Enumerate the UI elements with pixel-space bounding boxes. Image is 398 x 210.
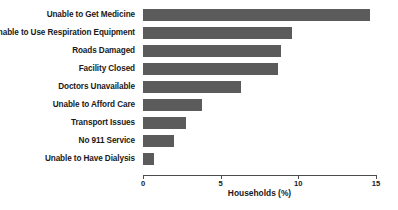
category-label: Transport Issues xyxy=(71,117,135,129)
bar xyxy=(143,81,241,93)
x-axis-tick-label: 10 xyxy=(294,179,302,188)
bar xyxy=(143,117,186,129)
category-label: Unable to Afford Care xyxy=(53,99,135,111)
bar-chart: Unable to Get MedicineUnable to Use Resp… xyxy=(0,0,398,210)
bar xyxy=(143,63,278,75)
bar xyxy=(143,153,154,165)
bar xyxy=(143,9,370,21)
x-axis-title: Households (%) xyxy=(143,188,376,198)
category-label: Unable to Have Dialysis xyxy=(45,153,135,165)
category-label: Unable to Use Respiration Equipment xyxy=(0,27,135,39)
category-label: Facility Closed xyxy=(79,63,135,75)
x-axis-tick-label: 15 xyxy=(372,179,380,188)
bar xyxy=(143,27,292,39)
bar xyxy=(143,45,281,57)
plot-area xyxy=(143,0,376,175)
x-axis-line xyxy=(143,175,376,176)
x-axis-tick-label: 5 xyxy=(219,179,223,188)
category-label: Doctors Unavailable xyxy=(58,81,135,93)
bar xyxy=(143,99,202,111)
category-label: Unable to Get Medicine xyxy=(47,9,135,21)
category-axis-labels: Unable to Get MedicineUnable to Use Resp… xyxy=(0,0,139,175)
bar xyxy=(143,135,174,147)
category-label: No 911 Service xyxy=(79,135,135,147)
category-label: Roads Damaged xyxy=(72,45,135,57)
x-axis-tick-label: 0 xyxy=(141,179,145,188)
